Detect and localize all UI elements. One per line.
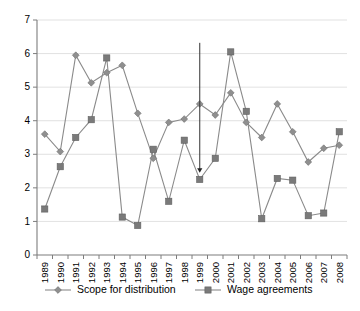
x-tick-label: 1996 [148,262,159,283]
data-point-marker [289,128,296,135]
legend-item: Scope for distribution [45,283,176,295]
y-tick-label: 5 [24,81,30,92]
x-tick-label: 2008 [334,262,345,283]
x-tick-label: 2007 [318,262,329,283]
data-point-marker [290,177,296,183]
x-tick-label: 2006 [303,262,314,283]
data-point-marker [227,89,234,96]
data-point-marker [181,137,187,143]
x-tick-label: 1993 [101,262,112,283]
x-tick-label: 2002 [241,262,252,283]
y-tick-label: 7 [24,14,30,25]
data-point-marker [259,216,265,222]
y-tick-label: 4 [24,115,30,126]
legend-label: Wage agreements [227,283,312,295]
y-tick-label: 2 [24,182,30,193]
series-markers [41,49,342,229]
line-chart: 01234567 1989199019911992199319941995199… [0,0,360,311]
x-tick-label: 1999 [194,262,205,283]
x-tick-labels: 1989199019911992199319941995199619971998… [39,262,345,283]
data-point-marker [212,112,219,119]
data-point-marker [197,176,203,182]
chart-legend: Scope for distributionWage agreements [45,283,312,295]
x-tick-label: 1997 [163,262,174,283]
data-point-marker [119,62,126,69]
x-tick-label: 2001 [225,262,236,283]
x-tick-label: 1990 [55,262,66,283]
x-tick-label: 1992 [86,262,97,283]
data-point-marker [134,110,141,117]
y-tick-label: 6 [24,48,30,59]
x-tick-label: 1994 [117,262,128,283]
data-point-marker [150,146,156,152]
legend-marker-square [205,287,211,293]
legend-label: Scope for distribution [77,283,176,295]
data-point-marker [165,119,172,126]
data-point-marker [305,213,311,219]
x-tick-label: 1989 [39,262,50,283]
y-axis: 01234567 [24,14,37,260]
data-point-marker [228,49,234,55]
x-axis [37,255,347,259]
x-tick-label: 2004 [272,262,283,283]
y-tick-label: 3 [24,148,30,159]
y-tick-label: 0 [24,249,30,260]
data-point-marker [212,155,218,161]
data-point-marker [104,55,110,61]
data-point-marker [336,129,342,135]
data-point-marker [88,79,95,86]
x-tick-label: 2000 [210,262,221,283]
data-point-marker [135,222,141,228]
data-point-marker [119,214,125,220]
annotation-arrow [197,43,202,173]
legend-marker-diamond [55,287,62,294]
data-point-marker [88,117,94,123]
data-point-marker [166,198,172,204]
x-tick-label: 1998 [179,262,190,283]
x-tick-label: 2003 [256,262,267,283]
series-line [45,55,340,162]
x-tick-label: 1991 [70,262,81,283]
x-tick-label: 2005 [287,262,298,283]
data-point-marker [274,101,281,108]
data-point-marker [57,164,63,170]
gridlines [37,20,347,221]
data-point-marker [103,69,110,76]
legend-item: Wage agreements [195,283,312,295]
x-tick-label: 1995 [132,262,143,283]
data-point-marker [274,175,280,181]
y-tick-label: 1 [24,216,30,227]
data-point-marker [321,210,327,216]
series-lines [45,52,340,226]
chart-container: 01234567 1989199019911992199319941995199… [0,0,360,311]
data-point-marker [243,108,249,114]
data-point-marker [42,206,48,212]
data-point-marker [72,52,79,59]
data-point-marker [73,134,79,140]
